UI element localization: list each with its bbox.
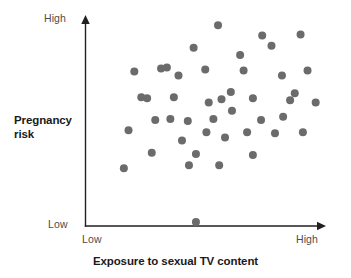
scatter-point	[137, 93, 145, 101]
scatter-plot-figure: High Low Low High Pregnancy risk Exposur…	[0, 0, 351, 278]
scatter-point	[163, 63, 171, 71]
scatter-point	[271, 129, 279, 137]
scatter-point	[243, 128, 251, 136]
y-axis-arrowhead	[81, 15, 89, 24]
scatter-point	[190, 44, 198, 52]
scatter-point	[151, 116, 159, 124]
scatter-point	[166, 115, 174, 123]
scatter-point	[291, 89, 299, 97]
scatter-point	[278, 72, 286, 80]
scatter-point	[192, 218, 200, 226]
scatter-point	[299, 128, 307, 136]
data-points-group	[120, 21, 320, 226]
y-axis-title-line-2: risk	[14, 128, 80, 142]
scatter-point	[228, 107, 236, 115]
scatter-point	[202, 128, 210, 136]
scatter-point	[209, 115, 217, 123]
y-axis-high-tick-label: High	[44, 12, 66, 24]
scatter-point	[312, 98, 320, 106]
scatter-point	[279, 113, 287, 121]
scatter-point	[227, 88, 235, 96]
scatter-point	[185, 161, 193, 169]
scatter-point	[249, 151, 257, 159]
scatter-point	[286, 96, 294, 104]
scatter-point	[257, 116, 265, 124]
y-axis-title: Pregnancy risk	[14, 114, 80, 141]
scatter-point	[258, 31, 266, 39]
scatter-point	[297, 30, 305, 38]
scatter-point	[192, 150, 200, 158]
scatter-point	[175, 72, 183, 80]
scatter-point	[214, 21, 222, 29]
scatter-point	[218, 95, 226, 103]
y-axis-title-line-1: Pregnancy	[14, 114, 80, 128]
scatter-point	[184, 117, 192, 125]
scatter-point	[215, 161, 223, 169]
scatter-point	[178, 137, 186, 145]
x-axis-low-tick-label: Low	[82, 233, 102, 245]
scatter-point	[201, 65, 209, 73]
scatter-point	[221, 133, 229, 141]
y-axis-low-tick-label: Low	[48, 218, 68, 230]
x-axis-arrowhead	[317, 222, 326, 230]
scatter-point	[205, 98, 213, 106]
scatter-point	[304, 66, 312, 74]
scatter-point	[240, 66, 248, 74]
x-axis-title: Exposure to sexual TV content	[0, 255, 351, 267]
scatter-point	[268, 42, 276, 50]
scatter-point	[170, 93, 178, 101]
scatter-point	[236, 51, 244, 59]
scatter-point	[249, 94, 257, 102]
x-axis-high-tick-label: High	[296, 233, 318, 245]
scatter-point	[120, 164, 128, 172]
scatter-point	[125, 126, 133, 134]
scatter-point	[130, 68, 138, 76]
scatter-point	[148, 149, 156, 157]
